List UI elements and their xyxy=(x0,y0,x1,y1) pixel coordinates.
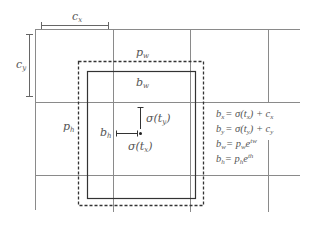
equation-bx: bx= σ(tx) + cx xyxy=(216,108,274,121)
pw-label: pw xyxy=(136,46,149,60)
bw-label: bw xyxy=(136,76,149,90)
cx-bracket xyxy=(41,22,109,29)
cy-bracket xyxy=(26,34,33,97)
box-center-point xyxy=(139,132,142,135)
cy-label: cy xyxy=(16,58,27,72)
sigma-ty-label: σ(ty) xyxy=(146,112,171,126)
sigma-tx-label: σ(tx) xyxy=(128,140,152,154)
bh-label: bh xyxy=(100,126,112,140)
bbox-diagram: cx cy pw bw ph bh σ(ty) σ(tx) bx= σ(tx) … xyxy=(0,0,316,228)
cx-label: cx xyxy=(72,10,82,24)
equations: bx= σ(tx) + cx by= σ(ty) + cy bw= pwetw … xyxy=(216,108,274,166)
sigma-tx-bracket xyxy=(116,131,138,137)
sigma-ty-bracket xyxy=(138,107,144,129)
equation-bw: bw= pwetw xyxy=(216,137,257,151)
equation-by: by= σ(ty) + cy xyxy=(216,123,274,136)
ph-label: ph xyxy=(63,120,75,134)
equation-bh: bh= pheth xyxy=(216,152,254,166)
